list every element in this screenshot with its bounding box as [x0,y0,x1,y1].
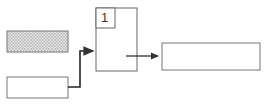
hatched-box [7,31,68,52]
connector-input-to-main [68,51,93,87]
diagram-canvas [0,0,265,104]
main-box-badge-label: 1 [101,10,108,25]
output-box [162,43,260,70]
input-box [7,77,68,98]
